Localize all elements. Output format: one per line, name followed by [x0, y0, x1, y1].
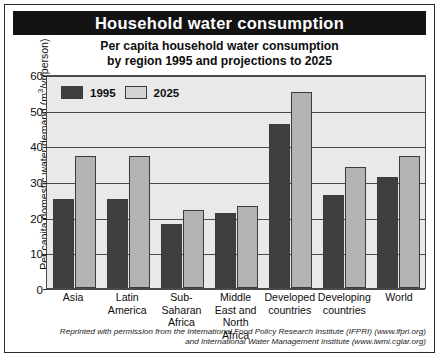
chart-title-bar: Household water consumption	[13, 11, 426, 35]
y-tick-label-50: 50	[30, 106, 43, 118]
bar-groups	[47, 76, 425, 288]
legend-item-1995: 1995	[61, 86, 116, 99]
legend-swatch-1995	[61, 86, 83, 99]
y-tick-label-40: 40	[30, 141, 43, 153]
x-axis-label-line: America	[101, 304, 153, 317]
credit-line-2: and International Water Management Insti…	[15, 337, 426, 347]
credit-note: Reprinted with permission from the Inter…	[15, 327, 426, 347]
bar-group	[155, 76, 209, 288]
y-axis-label-exponent: 3	[36, 89, 45, 93]
credit-line-1: Reprinted with permission from the Inter…	[15, 327, 426, 337]
bar-2025	[75, 156, 96, 288]
bar-1995	[215, 213, 236, 288]
x-axis-label-line: Developed	[264, 291, 316, 304]
bar-group	[317, 76, 371, 288]
bar-2025	[345, 167, 366, 288]
y-tick-label-20: 20	[30, 213, 43, 225]
subtitle-line-2: by region 1995 and projections to 2025	[13, 54, 426, 69]
legend-swatch-2025	[125, 86, 147, 99]
chart-subtitle: Per capita household water consumption b…	[13, 39, 426, 69]
bar-2025	[183, 210, 204, 288]
x-axis-label-line: Developing	[318, 291, 371, 304]
x-axis-label-line: Middle	[210, 291, 262, 304]
bar-1995	[53, 199, 74, 288]
y-tick-label-10: 10	[30, 248, 43, 260]
y-tick-label-60: 60	[30, 70, 43, 82]
x-axis-label-line: Latin	[101, 291, 153, 304]
x-axis-label-line: countries	[264, 304, 316, 317]
x-axis-label-line: Asia	[47, 291, 99, 304]
x-axis-label-line: Sub-Saharan	[155, 291, 207, 316]
legend-label-1995: 1995	[90, 87, 116, 99]
bar-group	[209, 76, 263, 288]
bar-group	[101, 76, 155, 288]
bar-1995	[269, 124, 290, 288]
chart-area: Per capita domestic water demand (m3/yr/…	[15, 75, 426, 325]
gridline-0	[47, 289, 425, 290]
bar-1995	[107, 199, 128, 288]
bar-group	[47, 76, 101, 288]
bar-2025	[129, 156, 150, 288]
bar-2025	[237, 206, 258, 288]
bar-1995	[377, 177, 398, 288]
bar-1995	[161, 224, 182, 288]
bar-1995	[323, 195, 344, 288]
legend-label-2025: 2025	[154, 87, 180, 99]
bar-group	[263, 76, 317, 288]
y-tick-label-30: 30	[30, 177, 43, 189]
y-tick-label-0: 0	[37, 284, 43, 296]
chart-legend: 1995 2025	[61, 86, 179, 99]
plot-region: 1995 2025 6050403020100	[46, 75, 426, 289]
y-tick-mark-0	[43, 289, 47, 290]
x-axis-label-line: East and	[210, 304, 262, 317]
bar-2025	[399, 156, 420, 288]
subtitle-line-1: Per capita household water consumption	[13, 39, 426, 54]
bar-group	[371, 76, 425, 288]
legend-item-2025: 2025	[125, 86, 180, 99]
x-axis-label-line: countries	[318, 304, 371, 317]
x-axis-label-line: World	[373, 291, 425, 304]
bar-2025	[291, 92, 312, 288]
figure-panel: Household water consumption Per capita h…	[4, 4, 435, 353]
